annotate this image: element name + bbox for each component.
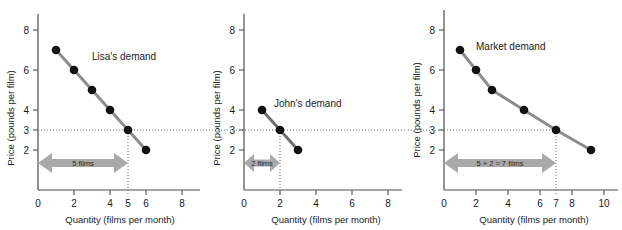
y-tick-2: 2 xyxy=(429,145,435,156)
y-ticks xyxy=(33,30,38,150)
demand-data-points xyxy=(258,106,303,155)
panel-john-demand: Price (pounds per film) 2 3 4 6 8 0 xyxy=(206,0,406,230)
x-tick-2: 2 xyxy=(473,198,479,209)
x-tick-6: 6 xyxy=(349,198,355,209)
x-tick-0: 0 xyxy=(241,198,247,209)
y-tick-4: 4 xyxy=(429,105,435,116)
y-tick-2: 2 xyxy=(229,145,235,156)
panel-lisa-demand: Price (pounds per film) 2 3 4 6 8 xyxy=(0,0,206,230)
bracket-label: 5 films xyxy=(72,159,94,168)
y-tick-3: 3 xyxy=(23,125,29,136)
x-tick-8: 8 xyxy=(569,198,575,209)
x-tick-4: 4 xyxy=(107,198,113,209)
y-tick-2: 2 xyxy=(23,145,29,156)
x-tick-6: 6 xyxy=(537,198,543,209)
demand-curve-line xyxy=(460,50,591,150)
y-ticks xyxy=(439,30,444,150)
x-tick-7: 7 xyxy=(553,198,559,209)
x-tick-8: 8 xyxy=(385,198,391,209)
y-axis-title: Price (pounds per film) xyxy=(211,70,222,166)
x-tick-10: 10 xyxy=(598,198,610,209)
x-axis-title: Quantity (films per month) xyxy=(479,214,588,225)
x-tick-4: 4 xyxy=(505,198,511,209)
y-tick-8: 8 xyxy=(429,25,435,36)
x-axis-title: Quantity (films per month) xyxy=(271,214,380,225)
x-ticks xyxy=(280,190,388,195)
demand-data-points xyxy=(456,46,596,155)
bracket-label: 2 films xyxy=(251,159,273,168)
y-tick-6: 6 xyxy=(429,65,435,76)
y-tick-8: 8 xyxy=(229,25,235,36)
curve-label: John's demand xyxy=(274,98,342,109)
y-axis-title: Price (pounds per film) xyxy=(411,62,422,158)
y-tick-4: 4 xyxy=(229,105,235,116)
panel-market-demand: Price (pounds per film) 2 3 4 6 8 xyxy=(406,0,622,230)
x-tick-4: 4 xyxy=(313,198,319,209)
demand-curve-line xyxy=(56,50,146,150)
x-tick-2: 2 xyxy=(71,198,77,209)
y-tick-8: 8 xyxy=(23,25,29,36)
y-tick-6: 6 xyxy=(229,65,235,76)
x-tick-8: 8 xyxy=(179,198,185,209)
y-axis-title: Price (pounds per film) xyxy=(5,70,16,166)
y-ticks xyxy=(239,30,244,150)
demand-curves-figure: Price (pounds per film) 2 3 4 6 8 xyxy=(0,0,622,230)
x-tick-2: 2 xyxy=(277,198,283,209)
curve-label: Lisa's demand xyxy=(92,51,156,62)
y-tick-4: 4 xyxy=(23,105,29,116)
curve-label: Market demand xyxy=(476,41,545,52)
x-tick-6: 6 xyxy=(143,198,149,209)
x-ticks xyxy=(476,190,604,195)
y-tick-6: 6 xyxy=(23,65,29,76)
x-tick-0: 0 xyxy=(441,198,447,209)
x-tick-5: 5 xyxy=(125,198,131,209)
x-tick-0: 0 xyxy=(35,198,41,209)
bracket-label: 5 + 2 = 7 films xyxy=(476,159,523,168)
x-axis-title: Quantity (films per month) xyxy=(65,214,174,225)
